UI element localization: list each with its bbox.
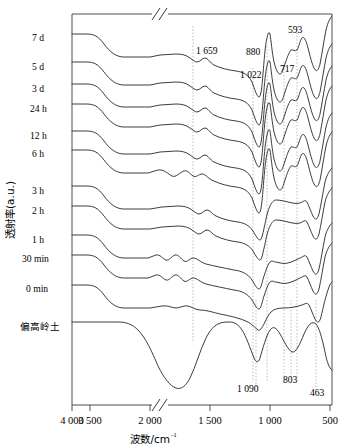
spectrum-12h [72, 113, 332, 194]
ftir-spectra-figure: 4 000 3 500 2 000 1 500 1 000 500 波数/cm … [0, 0, 346, 448]
peak-label-803: 803 [283, 374, 298, 385]
series-label-3d: 3 d [32, 83, 44, 94]
y-axis-title: 透射率(a.u.) [4, 181, 16, 239]
spectra-canvas: 4 000 3 500 2 000 1 500 1 000 500 波数/cm … [0, 0, 346, 448]
peak-label-880: 880 [246, 46, 261, 57]
peak-label-463: 463 [310, 387, 325, 398]
guide-lines-upper [193, 26, 316, 390]
x-tick-label-1000: 1 000 [258, 415, 282, 426]
series-label-0min: 0 min [26, 283, 48, 294]
x-axis-title-text: 波数/cm [130, 433, 170, 445]
peak-label-717: 717 [280, 63, 295, 74]
series-label-30min: 30 min [22, 253, 49, 264]
x-tick-label-500: 500 [322, 415, 338, 426]
peak-label-1022: 1 022 [240, 69, 262, 80]
x-axis-title-superscript: -1 [171, 431, 177, 439]
series-labels: 7 d 5 d 3 d 24 h 12 h 6 h 3 h 2 h 1 h 30… [20, 32, 60, 332]
x-tick-label-2000: 2 000 [138, 415, 162, 426]
axis-break-bottom [152, 399, 167, 411]
break-bottom-slash-1 [152, 399, 160, 411]
series-label-1h: 1 h [32, 234, 44, 245]
axis-break-top [152, 8, 167, 20]
break-top-slash-1 [152, 8, 160, 20]
series-label-2h: 2 h [32, 205, 44, 216]
x-tick-label-1500: 1 500 [198, 415, 222, 426]
spectrum-2h [72, 188, 332, 260]
spectrum-0min [72, 282, 332, 330]
series-label-metakaolin: 偏高岭土 [20, 321, 60, 332]
series-label-5d: 5 d [32, 61, 44, 72]
y-axis-title-text: 透射率(a.u.) [4, 181, 16, 239]
x-axis-ticks [72, 405, 330, 411]
x-axis-title: 波数/cm -1 [130, 431, 177, 445]
break-bottom-slash-2 [159, 399, 167, 411]
series-label-6h: 6 h [32, 148, 44, 159]
series-label-7d: 7 d [32, 32, 44, 43]
spectrum-6h [72, 132, 332, 213]
x-axis-tick-labels: 4 000 3 500 2 000 1 500 1 000 500 [60, 415, 338, 426]
spectrum-24h [72, 86, 332, 167]
series-label-3h: 3 h [32, 185, 44, 196]
peak-label-1659: 1 659 [196, 45, 218, 56]
break-top-slash-2 [159, 8, 167, 20]
series-label-12h: 12 h [30, 130, 47, 141]
series-label-24h: 24 h [30, 103, 47, 114]
peak-label-593: 593 [288, 24, 303, 35]
peak-label-1090: 1 090 [237, 383, 259, 394]
x-tick-label-3500: 3 500 [78, 415, 102, 426]
spectrum-3h [72, 168, 332, 240]
spectrum-5d [72, 44, 332, 125]
